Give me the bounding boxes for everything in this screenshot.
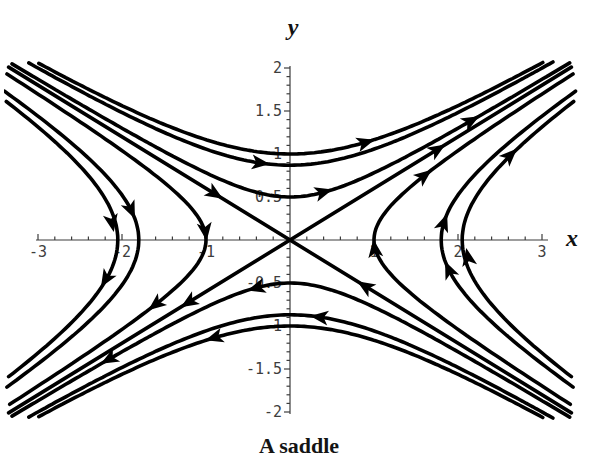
saddle-phase-portrait-figure: -3-2-1123-2-1.5-1-0.50.511.52 y x A sadd…: [0, 0, 600, 468]
phase-portrait-svg: -3-2-1123-2-1.5-1-0.50.511.52 y x A sadd…: [0, 0, 600, 468]
y-tick-label: 1.5: [255, 102, 282, 120]
x-axis-label: x: [565, 225, 578, 251]
y-tick-label: -2: [264, 403, 282, 421]
trajectory-upper-hyperbola: [29, 62, 553, 165]
flow-arrowhead: [434, 211, 454, 233]
flow-arrowhead: [121, 199, 142, 222]
y-tick-label: -1.5: [246, 360, 282, 378]
flow-arrowhead: [94, 268, 116, 291]
x-tick-label: -3: [29, 243, 47, 261]
trajectory-lower-hyperbola: [29, 315, 553, 418]
figure-caption: A saddle: [259, 433, 339, 458]
flow-arrowhead: [353, 275, 376, 297]
flow-arrowhead: [313, 182, 334, 201]
trajectory-left-hyperbola: [6, 102, 118, 377]
flow-arrowhead: [438, 258, 459, 281]
y-axis-label: y: [285, 14, 299, 40]
trajectory-right-hyperbola: [462, 102, 574, 377]
flow-arrowhead: [204, 183, 227, 205]
y-tick-label: 2: [273, 59, 282, 77]
x-tick-label: 3: [537, 243, 546, 261]
